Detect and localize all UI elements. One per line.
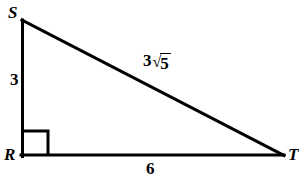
vertex-label-T: T bbox=[288, 146, 298, 163]
vertex-label-R: R bbox=[4, 146, 15, 163]
side-length-SR: 3 bbox=[10, 71, 19, 88]
radical-expression: √ 5 bbox=[153, 53, 171, 72]
vertex-label-S: S bbox=[8, 4, 17, 21]
radical-sign-icon: √ bbox=[153, 54, 162, 70]
right-angle-marker bbox=[24, 131, 48, 154]
side-length-RT: 6 bbox=[146, 160, 155, 177]
segment-ST bbox=[22, 20, 284, 156]
side-length-ST: 3 √ 5 bbox=[143, 52, 171, 72]
radicand-value: 5 bbox=[160, 53, 171, 72]
hypotenuse-coefficient: 3 bbox=[143, 52, 152, 69]
geometry-figure: S R T 3 6 3 √ 5 bbox=[0, 0, 308, 186]
